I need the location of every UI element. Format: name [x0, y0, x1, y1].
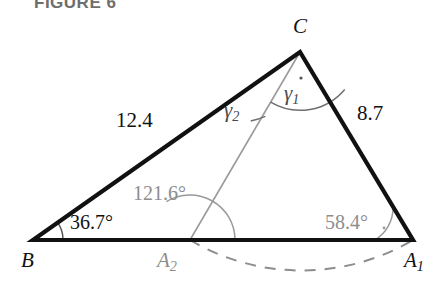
angle-label-A2: 121.6°	[133, 183, 186, 203]
construction-arc-dashed	[190, 240, 413, 271]
gamma1-subscript: 1	[292, 91, 299, 107]
vertex-label-A2: A2	[157, 250, 177, 274]
figure-container: FIGURE 6 B C A1 A2 12.4 8.7 36.7° 58.4° …	[0, 0, 439, 304]
angle-dot-gamma1	[299, 76, 302, 79]
angle-label-gamma1: γ1	[284, 83, 299, 107]
angle-arc-gamma2	[251, 116, 266, 121]
side-label-BC: 12.4	[116, 110, 153, 131]
angle-label-B: 36.7°	[70, 212, 113, 232]
vertex-label-A1-letter: A	[404, 248, 417, 272]
gamma2-subscript: 2	[232, 108, 239, 124]
vertex-label-B: B	[21, 250, 34, 271]
triangle-diagram-svg	[0, 0, 439, 304]
angle-label-gamma2: γ2	[224, 100, 239, 124]
angle-arc-A1	[375, 208, 393, 240]
vertex-label-A1: A1	[404, 250, 424, 274]
angle-dot-A1	[383, 227, 386, 230]
vertex-label-C: C	[293, 16, 307, 37]
angle-label-A1: 58.4°	[325, 212, 368, 232]
side-label-CA1: 8.7	[357, 103, 383, 124]
vertex-label-A2-letter: A	[157, 248, 170, 272]
vertex-label-A1-subscript: 1	[417, 258, 424, 274]
vertex-label-A2-subscript: 2	[170, 258, 177, 274]
